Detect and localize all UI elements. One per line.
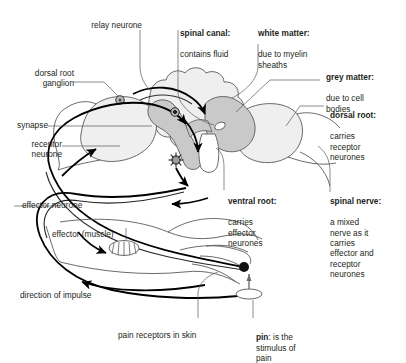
label-relay-neurone: relay neurone [58, 20, 142, 30]
effector-cell-body-star [169, 153, 184, 168]
label-spinal-canal-body: contains fluid [180, 49, 228, 59]
relay-cell-nucleus [174, 111, 177, 114]
label-dorsal-root: dorsal root: carries receptor neurones [330, 100, 404, 162]
effector-muscle [109, 241, 139, 256]
leader-dorsal-root-ganglion [73, 82, 118, 96]
diagram-canvas: relay neurone dorsal root ganglion synap… [0, 0, 406, 363]
label-dorsal-root-ganglion: dorsal root ganglion [2, 68, 74, 89]
label-dorsal-root-title: dorsal root: [330, 110, 376, 120]
label-white-matter: white matter: due to myelin sheaths [258, 18, 334, 70]
label-receptor-neurone: receptor neurone [2, 139, 62, 160]
dorsal-root-branch [66, 102, 96, 108]
label-spinal-canal: spinal canal: contains fluid [180, 18, 248, 60]
leader-relay-neurone [140, 30, 150, 90]
label-direction-of-impulse: direction of impulse [20, 290, 140, 300]
label-white-matter-title: white matter: [258, 28, 310, 38]
label-ventral-root-body: carries effector neurones [228, 217, 263, 248]
pin-stimulus [236, 262, 262, 299]
leader-pain-receptors [198, 272, 218, 318]
receptor-neurone-path-inner [46, 172, 243, 270]
spinal-nerve-split [300, 152, 330, 186]
pin-point [247, 274, 252, 281]
finger-3 [192, 264, 236, 282]
label-white-matter-body: due to myelin sheaths [258, 49, 307, 69]
ganglion-cell-nucleus [119, 99, 122, 102]
label-ventral-root-title: ventral root: [228, 196, 276, 206]
label-pain-receptors-in-skin: pain receptors in skin [118, 330, 242, 340]
leader-spinal-nerve [318, 146, 330, 192]
label-effector-muscle: effector (muscle) [52, 229, 148, 239]
effector-neurone-path [176, 168, 188, 186]
label-synapse: synapse [2, 120, 48, 130]
label-pin: pin: is the stimulus of pain [256, 322, 328, 363]
label-spinal-canal-title: spinal canal: [180, 28, 230, 38]
pin-head [236, 289, 262, 299]
label-effector-neurone: effector neurone [22, 200, 132, 210]
label-spinal-nerve: spinal nerve: a mixed nerve as it carrie… [330, 186, 406, 280]
label-pin-title: pin [256, 332, 268, 342]
ventral-fissure [199, 134, 219, 172]
impulse-arrow-cord-exit [172, 198, 208, 204]
pain-receptor-dot [239, 262, 249, 272]
impulse-arrow-dorsal [62, 149, 96, 176]
label-spinal-nerve-title: spinal nerve: [330, 196, 381, 206]
label-spinal-nerve-body: a mixed nerve as it carries effector and… [330, 217, 374, 279]
label-dorsal-root-body: carries receptor neurones [330, 131, 365, 162]
label-ventral-root: ventral root: carries effector neurones [228, 186, 304, 248]
spinal-cord-cross-section [54, 68, 340, 186]
label-grey-matter-title: grey matter: [326, 72, 374, 82]
